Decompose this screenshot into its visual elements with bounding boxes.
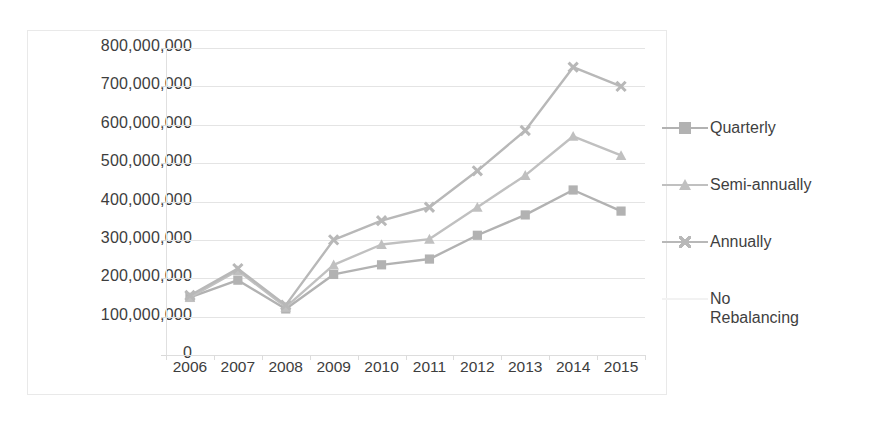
series-plot <box>166 48 645 355</box>
series-semi-annually <box>185 131 627 312</box>
x-axis-tick-label: 2011 <box>403 358 455 376</box>
series-annually <box>185 63 625 310</box>
x-axis-tick-label: 2010 <box>356 358 408 376</box>
x-axis-tick-label: 2009 <box>308 358 360 376</box>
x-axis-tick-label: 2012 <box>451 358 503 376</box>
legend-marker-cross-icon <box>662 233 708 251</box>
x-axis-tick-label: 2013 <box>499 358 551 376</box>
series-quarterly <box>185 185 625 313</box>
x-axis-labels: 2006200720082009201020112012201320142015 <box>166 358 645 386</box>
legend-label: Annually <box>708 232 771 251</box>
x-axis-tick-label: 2007 <box>212 358 264 376</box>
legend-entry[interactable]: Quarterly <box>662 118 776 137</box>
x-axis-tick-label: 2015 <box>595 358 647 376</box>
x-axis-tick-label: 2006 <box>164 358 216 376</box>
legend-entry[interactable]: Semi-annually <box>662 175 811 194</box>
plot-area <box>166 48 645 355</box>
legend-entry[interactable]: Annually <box>662 232 771 251</box>
legend-marker-triangle-icon <box>662 176 708 194</box>
x-axis-tick-label: 2014 <box>547 358 599 376</box>
legend-label: Semi-annually <box>708 175 811 194</box>
line-chart: 800,000,000700,000,000600,000,000500,000… <box>0 0 875 423</box>
legend-label: Quarterly <box>708 118 776 137</box>
x-axis-tick-label: 2008 <box>260 358 312 376</box>
legend-label: No Rebalancing <box>708 289 799 327</box>
legend-marker-none-icon <box>662 290 708 308</box>
legend-entry[interactable]: No Rebalancing <box>662 289 799 327</box>
legend-marker-square-icon <box>662 119 708 137</box>
